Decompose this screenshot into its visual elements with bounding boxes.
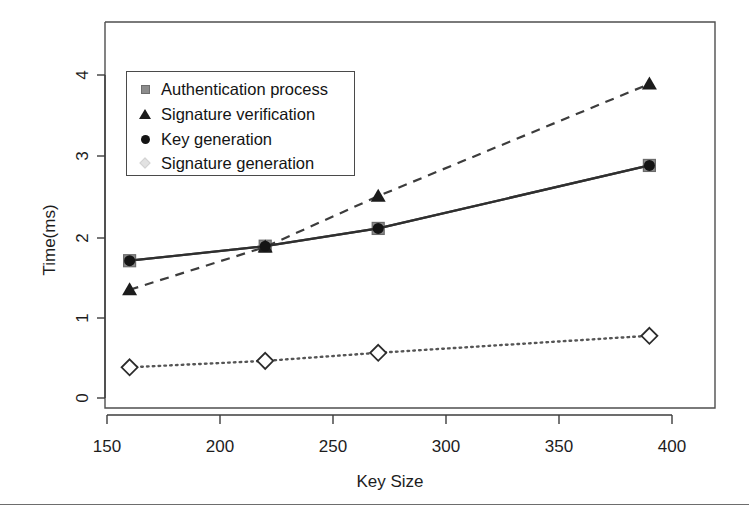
chart-legend: Authentication process Signature verific… [126, 71, 355, 176]
x-tick-label-250: 250 [319, 437, 347, 456]
chart-figure: 0 1 2 3 4 Time(ms) 150 200 250 300 350 4… [0, 0, 749, 519]
legend-label-1: Signature verification [161, 105, 315, 123]
x-tick-label-200: 200 [206, 437, 234, 456]
square-marker-icon [135, 79, 155, 99]
x-tick-label-150: 150 [93, 437, 121, 456]
x-tick-label-400: 400 [658, 437, 686, 456]
page-divider-rule [0, 504, 749, 505]
legend-label-3: Signature generation [161, 154, 314, 172]
x-axis-title: Key Size [356, 472, 423, 491]
legend-item-authentication-process: Authentication process [135, 77, 328, 101]
legend-item-signature-verification: Signature verification [135, 102, 315, 126]
data-point [641, 328, 657, 344]
legend-item-signature-generation: Signature generation [135, 151, 314, 175]
triangle-marker-icon [135, 104, 155, 124]
data-point [370, 345, 386, 361]
y-tick-label-0: 0 [73, 393, 92, 402]
data-point [122, 359, 138, 375]
x-axis [107, 415, 672, 424]
series-signature-generation [122, 328, 658, 375]
y-tick-label-1: 1 [73, 313, 92, 322]
y-tick-label-3: 3 [73, 151, 92, 160]
data-point [644, 160, 655, 171]
y-tick-label-4: 4 [73, 70, 92, 79]
legend-label-0: Authentication process [161, 80, 328, 98]
y-axis-title: Time(ms) [40, 204, 59, 275]
diamond-marker-icon [135, 153, 155, 173]
y-axis [97, 75, 105, 398]
data-point [371, 189, 386, 202]
legend-item-key-generation: Key generation [135, 127, 272, 151]
data-point [642, 76, 657, 89]
circle-marker-icon [135, 129, 155, 149]
data-point [124, 255, 135, 266]
x-tick-label-300: 300 [432, 437, 460, 456]
x-tick-label-350: 350 [545, 437, 573, 456]
data-point [257, 353, 273, 369]
line-chart-plot: 0 1 2 3 4 Time(ms) 150 200 250 300 350 4… [0, 0, 749, 519]
data-point [260, 241, 271, 252]
legend-label-2: Key generation [161, 130, 272, 148]
y-tick-label-2: 2 [73, 233, 92, 242]
data-point [373, 223, 384, 234]
